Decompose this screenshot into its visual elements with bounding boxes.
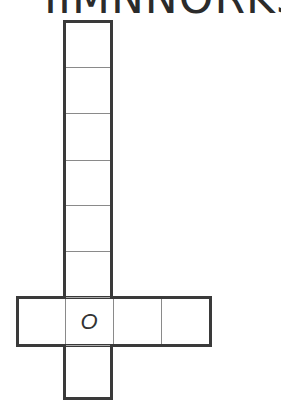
grid-cell-intersection[interactable]: O — [65, 298, 113, 346]
cell-divider — [66, 160, 110, 161]
puzzle-title-clipped: IIMNNORKS — [0, 0, 281, 16]
cell-divider — [66, 205, 110, 206]
column-border-left-lower — [63, 344, 66, 394]
puzzle-title: IIMNNORKS — [44, 0, 281, 16]
column-border-right-lower — [110, 344, 113, 394]
grid-cell-v1[interactable] — [66, 23, 110, 67]
cell-divider — [66, 67, 110, 68]
cell-divider — [66, 113, 110, 114]
grid-cell-h4[interactable] — [162, 299, 209, 344]
cell-divider — [66, 251, 110, 252]
grid-cell-h3[interactable] — [114, 299, 161, 344]
grid-cell-h1[interactable] — [19, 299, 65, 344]
